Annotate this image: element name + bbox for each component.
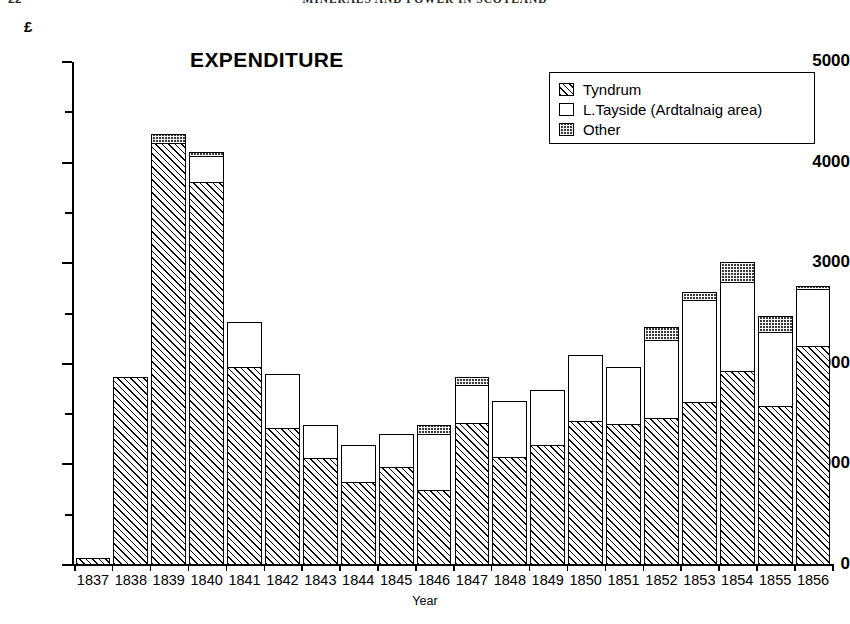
x-tick	[567, 564, 569, 571]
x-tick	[718, 564, 720, 571]
x-tick	[188, 564, 190, 571]
bar-1850	[568, 357, 603, 565]
legend-swatch-open-icon	[559, 103, 574, 116]
bar-segment-other	[796, 286, 831, 290]
x-tick	[832, 564, 834, 571]
bar-segment-l-tayside-ardtalnaig-area	[530, 390, 565, 447]
bar-1854	[720, 263, 755, 565]
bar-1843	[303, 426, 338, 565]
legend-swatch-hatch-icon	[559, 83, 574, 96]
bar-1837	[76, 559, 111, 565]
x-tick	[794, 564, 796, 571]
bar-segment-other	[151, 134, 186, 143]
legend-item-ltayside: L.Tayside (Ardtalnaig area)	[559, 99, 806, 119]
bar-1848	[492, 402, 527, 565]
bar-segment-tyndrum	[379, 467, 414, 565]
bar-segment-tyndrum	[151, 142, 186, 565]
bar-segment-tyndrum	[303, 458, 338, 565]
bar-segment-tyndrum	[644, 418, 679, 565]
bar-segment-l-tayside-ardtalnaig-area	[682, 300, 717, 403]
bar-segment-l-tayside-ardtalnaig-area	[796, 289, 831, 347]
bar-segment-tyndrum	[227, 367, 262, 565]
bar-1847	[455, 378, 490, 565]
bar-segment-l-tayside-ardtalnaig-area	[303, 425, 338, 459]
bar-segment-tyndrum	[113, 377, 148, 565]
bar-segment-l-tayside-ardtalnaig-area	[189, 155, 224, 182]
bar-segment-l-tayside-ardtalnaig-area	[644, 339, 679, 419]
x-tick	[74, 564, 76, 571]
bar-segment-l-tayside-ardtalnaig-area	[265, 374, 300, 430]
legend-label: Tyndrum	[583, 82, 641, 97]
bar-1842	[265, 375, 300, 565]
chart-page: 22 MINERALS AND POWER IN SCOTLAND £ EXPE…	[0, 0, 850, 624]
bar-segment-tyndrum	[796, 345, 831, 565]
x-tick	[529, 564, 531, 571]
x-tick	[301, 564, 303, 571]
x-tick	[226, 564, 228, 571]
bar-segment-other	[455, 377, 490, 386]
bar-1840	[189, 154, 224, 565]
bar-segment-l-tayside-ardtalnaig-area	[606, 367, 641, 426]
legend-swatch-stipple-icon	[559, 123, 574, 136]
x-tick	[415, 564, 417, 571]
bar-1853	[682, 293, 717, 565]
x-tick	[491, 564, 493, 571]
bar-1841	[227, 324, 262, 565]
bar-segment-other	[417, 425, 452, 435]
bar-segment-other	[682, 292, 717, 301]
x-tick	[264, 564, 266, 571]
bar-1849	[530, 391, 565, 565]
x-axis-title: Year	[0, 594, 850, 608]
x-tick	[377, 564, 379, 571]
bar-segment-tyndrum	[265, 428, 300, 565]
x-tick	[112, 564, 114, 571]
x-tick	[339, 564, 341, 571]
bar-1851	[606, 368, 641, 565]
bar-segment-tyndrum	[341, 481, 376, 565]
bar-segment-tyndrum	[720, 371, 755, 565]
bar-segment-tyndrum	[682, 402, 717, 565]
bar-segment-l-tayside-ardtalnaig-area	[379, 434, 414, 468]
bar-segment-l-tayside-ardtalnaig-area	[417, 434, 452, 491]
plot-area: £ EXPENDITURE 500040003000200010000 1837…	[0, 0, 850, 624]
bar-1855	[758, 318, 793, 565]
bar-1839	[151, 135, 186, 565]
bar-segment-tyndrum	[568, 421, 603, 565]
bar-segment-l-tayside-ardtalnaig-area	[720, 282, 755, 372]
bar-1844	[341, 446, 376, 565]
bar-segment-l-tayside-ardtalnaig-area	[341, 445, 376, 483]
bar-1838	[113, 378, 148, 565]
bar-segment-other	[720, 262, 755, 283]
legend-label: Other	[583, 122, 621, 137]
bar-1852	[644, 329, 679, 565]
bar-segment-tyndrum	[417, 489, 452, 565]
legend-label: L.Tayside (Ardtalnaig area)	[583, 102, 762, 117]
bar-segment-other	[189, 152, 224, 156]
bar-segment-l-tayside-ardtalnaig-area	[568, 355, 603, 422]
bar-1845	[379, 435, 414, 565]
bar-segment-l-tayside-ardtalnaig-area	[492, 401, 527, 459]
bar-segment-tyndrum	[530, 445, 565, 565]
x-tick	[680, 564, 682, 571]
x-tick	[605, 564, 607, 571]
bar-1856	[796, 287, 831, 565]
x-tick	[150, 564, 152, 571]
bar-segment-l-tayside-ardtalnaig-area	[758, 331, 793, 407]
bar-segment-l-tayside-ardtalnaig-area	[227, 322, 262, 368]
legend-item-tyndrum: Tyndrum	[559, 79, 806, 99]
bar-segment-tyndrum	[455, 423, 490, 565]
bar-segment-tyndrum	[606, 424, 641, 565]
x-tick	[756, 564, 758, 571]
bar-segment-tyndrum	[189, 181, 224, 565]
chart-legend: Tyndrum L.Tayside (Ardtalnaig area) Othe…	[549, 72, 815, 144]
x-tick	[643, 564, 645, 571]
bar-segment-other	[758, 316, 793, 332]
x-tick	[453, 564, 455, 571]
bar-1846	[417, 426, 452, 565]
bar-segment-tyndrum	[758, 406, 793, 565]
bar-segment-tyndrum	[76, 558, 111, 565]
x-tick-label: 1856	[789, 572, 837, 588]
legend-item-other: Other	[559, 119, 806, 139]
bar-segment-tyndrum	[492, 457, 527, 565]
bar-segment-other	[644, 327, 679, 340]
